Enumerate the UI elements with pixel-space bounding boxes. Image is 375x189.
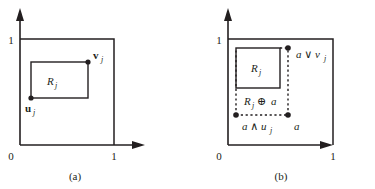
- unit-square-a: [20, 39, 114, 145]
- vertex-dot-meet-b: [233, 112, 239, 118]
- y-axis-arrowhead-a: [16, 8, 24, 21]
- region-label-rj-a: R: [46, 75, 54, 87]
- join-label-subscript-b: j: [323, 54, 327, 63]
- rectangle-rj-a: [31, 62, 88, 98]
- point-label-a-b: a: [294, 120, 300, 132]
- panel-caption-a: (a): [69, 170, 82, 183]
- x-tick-label-1-b: 1: [330, 150, 336, 162]
- vertex-label-uj-subscript-a: j: [32, 108, 36, 117]
- y-axis-arrowhead-b: [224, 8, 232, 21]
- minkowski-label-subscript-b: j: [251, 101, 255, 110]
- minkowski-operand-label-b: a: [271, 95, 277, 107]
- region-label-rj-subscript-b: j: [258, 68, 262, 77]
- origin-label-b: 0: [216, 150, 222, 162]
- panel-caption-b: (b): [275, 170, 288, 183]
- vertex-dot-vj-a: [85, 59, 90, 64]
- vertex-dot-uj-a: [28, 95, 33, 100]
- vertex-label-vj-subscript-a: j: [100, 55, 104, 64]
- vertex-label-uj-a: u: [25, 102, 31, 114]
- join-label-b: a ∨ v: [296, 48, 320, 60]
- y-tick-label-1-a: 1: [8, 34, 14, 46]
- y-tick-label-1-b: 1: [216, 34, 222, 46]
- vertex-dot-join-b: [285, 45, 291, 51]
- x-axis-arrowhead-b: [320, 141, 333, 149]
- origin-label-a: 0: [8, 150, 14, 162]
- region-label-rj-b: R: [250, 62, 258, 74]
- minkowski-label-r-b: R: [243, 95, 251, 107]
- vertex-dot-a-b: [285, 112, 291, 118]
- figure-container: 1 0 1 R j u j v j (a): [0, 0, 375, 189]
- panel-a: 1 0 1 R j u j v j (a): [0, 0, 188, 189]
- panel-b: 1 0 1 R j R j ⊕ a a ∨ v j a ∧ u j a (b): [188, 0, 375, 189]
- meet-label-b: a ∧ u: [242, 120, 267, 132]
- meet-label-subscript-b: j: [269, 126, 273, 135]
- x-axis-arrowhead-a: [132, 141, 145, 149]
- rectangle-rj-b: [236, 48, 280, 88]
- minkowski-operator-icon: ⊕: [257, 95, 266, 107]
- vertex-label-vj-a: v: [93, 49, 99, 61]
- region-label-rj-subscript-a: j: [54, 81, 58, 90]
- x-tick-label-1-a: 1: [111, 150, 117, 162]
